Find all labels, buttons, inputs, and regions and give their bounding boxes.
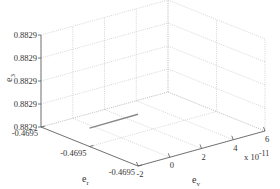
x-tick-label: 2 <box>201 152 205 162</box>
data-series <box>90 114 139 128</box>
grid-lines <box>41 0 265 166</box>
y-tick <box>90 146 94 147</box>
grid-line-floor-y <box>90 112 217 147</box>
y-tick <box>138 165 142 166</box>
x-axis-multiplier: x 10-11 <box>244 149 269 162</box>
tick-labels: -20246-0.4695-0.4695-0.46950.88290.88290… <box>12 30 269 179</box>
y-tick <box>41 126 45 127</box>
z-tick-label: 0.8829 <box>14 99 37 109</box>
grid-line-floor-x <box>73 118 170 157</box>
series-line <box>90 114 139 128</box>
plot-3d: -20246-0.4695-0.4695-0.46950.88290.88290… <box>0 0 280 189</box>
x-tick-label: -2 <box>136 169 143 179</box>
x-tick-label: 4 <box>233 143 238 153</box>
x-tick-label: 6 <box>265 134 269 144</box>
x-axis-label: ev <box>192 174 200 188</box>
axes-box <box>38 35 265 166</box>
z-tick-label: 0.8829 <box>14 122 37 132</box>
y-tick-label: -0.4695 <box>60 148 86 158</box>
x-tick-label: 0 <box>170 160 174 170</box>
y-tick-label: -0.4695 <box>109 167 135 177</box>
y-axis-label: er <box>82 173 89 187</box>
z-tick-label: 0.8829 <box>14 53 37 63</box>
z-tick-label: 0.8829 <box>14 30 37 40</box>
grid-line-floor-x <box>136 101 233 140</box>
grid-line-floor-x <box>105 110 202 149</box>
z-tick-label: 0.8829 <box>14 76 37 86</box>
